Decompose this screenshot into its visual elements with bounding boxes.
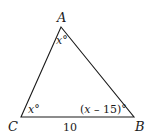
vertex-label-b: B [135,120,145,133]
vertex-label-c: C [8,120,18,133]
vertex-label-a: A [57,11,66,24]
angle-label-c: x° [28,104,40,115]
triangle-figure [0,0,148,139]
angle-b-rest: – 15)° [91,103,127,116]
angle-label-a: x° [56,35,68,46]
angle-label-b: (x – 15)° [80,104,127,115]
side-label-cb: 10 [63,122,77,133]
triangle-diagram: A C B x° x° (x – 15)° 10 [0,0,148,139]
angle-a-degree: ° [62,34,68,47]
angle-c-degree: ° [34,103,40,116]
